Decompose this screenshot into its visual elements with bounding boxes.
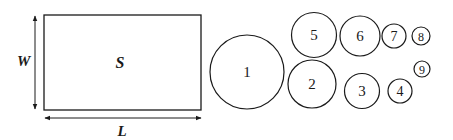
circle-label: 7	[391, 29, 398, 44]
circle-item-3: 3	[345, 74, 380, 109]
sheet-label: S	[116, 54, 125, 71]
length-dimension: L	[45, 118, 201, 139]
circle-label: 9	[419, 63, 425, 77]
sheet-rectangle: S	[44, 15, 201, 110]
length-label: L	[116, 123, 126, 139]
circle-label: 4	[397, 84, 404, 99]
circle-items: 123456789	[210, 13, 430, 110]
width-dimension: W	[17, 16, 35, 109]
packing-diagram: S W L 123456789	[0, 0, 453, 140]
circle-label: 3	[358, 83, 366, 99]
circle-item-4: 4	[388, 79, 412, 103]
circle-item-8: 8	[412, 27, 430, 45]
circle-item-7: 7	[382, 24, 406, 48]
circle-item-6: 6	[340, 16, 380, 56]
circle-item-5: 5	[292, 13, 337, 58]
circle-item-1: 1	[210, 35, 284, 109]
width-label: W	[17, 53, 32, 69]
circle-label: 1	[243, 64, 251, 80]
circle-label: 5	[310, 27, 318, 43]
circle-label: 6	[356, 28, 364, 44]
circle-item-9: 9	[414, 61, 430, 77]
circle-item-2: 2	[288, 60, 336, 108]
circle-label: 8	[418, 30, 424, 44]
circle-label: 2	[308, 76, 316, 92]
